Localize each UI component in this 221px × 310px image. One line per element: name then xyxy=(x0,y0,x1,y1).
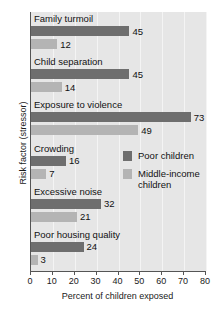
x-axis-tick xyxy=(30,271,31,275)
legend-label-poor: Poor children xyxy=(138,150,200,161)
x-axis-tick xyxy=(161,271,162,275)
x-axis-tick xyxy=(52,271,53,275)
plot-area: Family turmoil4512Child separation4514Ex… xyxy=(30,12,206,271)
bar xyxy=(31,39,57,49)
bar-value-label: 49 xyxy=(141,125,152,136)
bar xyxy=(31,82,62,92)
x-axis-tick-label: 50 xyxy=(134,276,144,286)
category-label: Child separation xyxy=(34,55,103,68)
x-axis-tick-label: 20 xyxy=(69,276,79,286)
bar-value-label: 3 xyxy=(41,254,46,265)
bar-value-label: 12 xyxy=(60,39,71,50)
x-axis-tick-label: 0 xyxy=(27,276,32,286)
bar-group: Poor housing quality243 xyxy=(31,228,206,271)
bar-group: Child separation4514 xyxy=(31,55,206,98)
legend-swatch-icon-middle xyxy=(123,169,132,179)
bar xyxy=(31,26,129,36)
x-axis-tick-label: 40 xyxy=(112,276,122,286)
x-axis-tick xyxy=(205,271,206,275)
bar-value-label: 21 xyxy=(80,211,91,222)
category-label: Exposure to violence xyxy=(34,98,122,111)
bar-value-label: 32 xyxy=(104,198,115,209)
legend-label-middle-line2: children xyxy=(138,179,200,190)
legend-label-middle-line1: Middle-income xyxy=(138,168,200,179)
bar xyxy=(31,169,46,179)
bar-value-label: 73 xyxy=(194,112,205,123)
x-axis-line xyxy=(30,271,205,272)
x-axis-tick-label: 70 xyxy=(178,276,188,286)
x-axis-tick xyxy=(118,271,119,275)
x-axis-tick xyxy=(139,271,140,275)
x-axis-title: Percent of children exposed xyxy=(30,291,205,301)
x-axis-tick-label: 80 xyxy=(200,276,210,286)
category-label: Poor housing quality xyxy=(34,228,120,241)
bar xyxy=(31,69,129,79)
bar xyxy=(31,199,101,209)
legend-swatch-icon-poor xyxy=(123,151,132,161)
category-label: Crowding xyxy=(34,142,74,155)
bar xyxy=(31,112,191,122)
x-axis-tick-label: 60 xyxy=(156,276,166,286)
bar xyxy=(31,242,84,252)
bar-group: Exposure to violence7349 xyxy=(31,98,206,141)
legend-item-middle-income-children: Middle-income children xyxy=(123,168,200,190)
bar xyxy=(31,212,77,222)
bar xyxy=(31,125,138,135)
x-axis-tick-label: 30 xyxy=(91,276,101,286)
category-label: Excessive noise xyxy=(34,185,102,198)
bar-value-label: 14 xyxy=(65,82,76,93)
gridline xyxy=(206,12,207,271)
x-axis-tick-label: 10 xyxy=(47,276,57,286)
bar xyxy=(31,156,66,166)
category-label: Family turmoil xyxy=(34,12,93,25)
bar-value-label: 24 xyxy=(87,241,98,252)
y-axis-title: Risk factor (stressor) xyxy=(18,68,28,218)
bar-value-label: 16 xyxy=(69,155,80,166)
chart-legend: Poor children Middle-income children xyxy=(123,150,200,197)
bar-group: Family turmoil4512 xyxy=(31,12,206,55)
bar-value-label: 7 xyxy=(49,168,54,179)
bar-value-label: 45 xyxy=(132,26,143,37)
x-axis-tick xyxy=(74,271,75,275)
x-axis-tick-labels: 01020304050607080 xyxy=(30,276,205,288)
x-axis-tick xyxy=(183,271,184,275)
chart-figure: Risk factor (stressor) Family turmoil451… xyxy=(0,0,221,310)
bar-groups: Family turmoil4512Child separation4514Ex… xyxy=(31,12,206,271)
x-axis-tick xyxy=(96,271,97,275)
legend-item-poor-children: Poor children xyxy=(123,150,200,161)
bar-value-label: 45 xyxy=(132,69,143,80)
bar xyxy=(31,255,38,265)
